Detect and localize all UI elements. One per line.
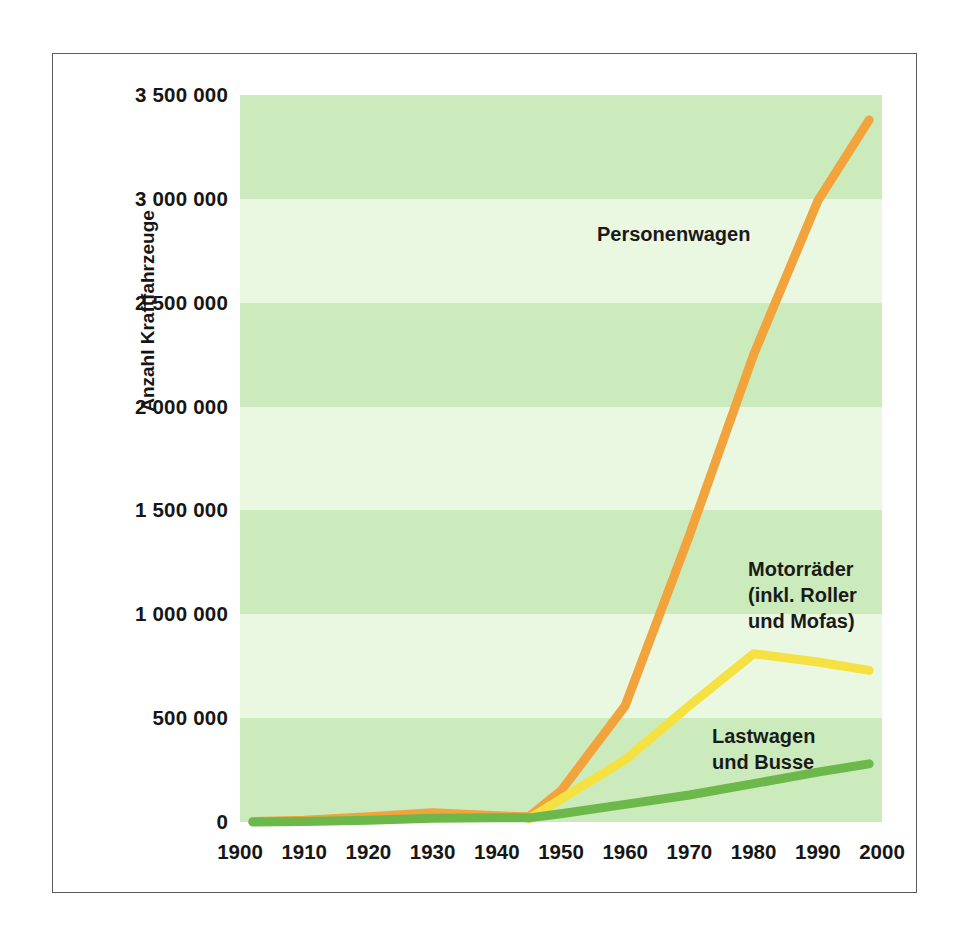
y-tick-label: 500 000 [152, 706, 228, 730]
plot-area [240, 95, 882, 822]
chart-figure: 0500 0001 000 0001 500 0002 000 0002 500… [0, 0, 960, 942]
y-tick-label: 1 500 000 [135, 498, 228, 522]
y-axis-title: Anzahl Kraftfahrzeuge [137, 141, 159, 481]
x-tick-label: 1900 [217, 840, 263, 864]
x-tick-label: 1990 [795, 840, 841, 864]
y-tick-label: 0 [216, 810, 228, 834]
y-tick-label: 3 500 000 [135, 83, 228, 107]
x-tick-label: 1960 [602, 840, 648, 864]
series-lines [240, 95, 882, 822]
x-tick-label: 1920 [346, 840, 392, 864]
x-tick-label: 1930 [410, 840, 456, 864]
x-tick-label: 1940 [474, 840, 520, 864]
x-tick-label: 2000 [859, 840, 905, 864]
annotation-personenwagen: Personenwagen [597, 221, 750, 247]
y-tick-label: 1 000 000 [135, 602, 228, 626]
x-tick-label: 1950 [538, 840, 584, 864]
annotation-lastwagen: Lastwagen und Busse [712, 723, 815, 775]
x-tick-label: 1970 [667, 840, 713, 864]
x-tick-label: 1910 [281, 840, 327, 864]
series-line [253, 120, 869, 822]
x-axis-ticks: 1900191019201930194019501960197019801990… [0, 840, 960, 880]
x-tick-label: 1980 [731, 840, 777, 864]
annotation-motorraeder: Motorräder (inkl. Roller und Mofas) [748, 556, 857, 634]
